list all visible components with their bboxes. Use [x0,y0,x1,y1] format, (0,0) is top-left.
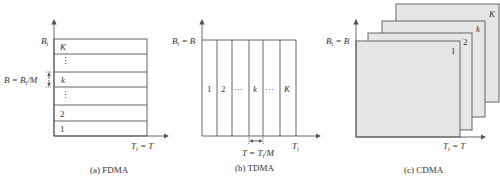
fdma-band-label: B = Bt/M [4,75,38,86]
fdma-y-label: Bt [41,36,49,47]
fdma-row-k: k [61,75,66,85]
tdma-caption: (b) TDMA [235,163,275,173]
fdma-row-K: K [59,42,67,52]
tdma-col-K: K [283,84,291,94]
cdma-x-label: Tt = T [443,141,466,152]
cdma-y-label: Bt = B [326,36,350,47]
cdma-plate-K-label: K [488,9,496,19]
cdma-plate-2-label: 2 [463,37,468,47]
tdma-x-label: Tt [292,141,299,152]
cdma-caption: (c) CDMA [404,165,444,175]
cdma-plate-1-label: 1 [451,46,456,56]
fdma-row-1: 1 [60,124,65,134]
fdma-caption: (a) FDMA [90,165,129,175]
tdma-col-2: 2 [221,84,226,94]
tdma-col-dots-right: ··· [265,84,274,94]
multiple-access-diagram: K ⋮ k ⋮ 2 1 Bt B = Bt/M Tt = T (a) FDMA … [0,0,500,179]
fdma-row-dots-upper: ⋮ [61,56,70,66]
cdma-panel: K k 2 1 Bt = B Tt = T (c) CDMA [326,4,499,175]
tdma-col-1: 1 [207,84,212,94]
cdma-plate-1 [356,41,460,137]
fdma-row-dots-lower: ⋮ [61,90,70,100]
fdma-panel: K ⋮ k ⋮ 2 1 Bt B = Bt/M Tt = T (a) FDMA [4,20,168,175]
fdma-x-label: Tt = T [131,141,154,152]
tdma-col-k: k [253,84,258,94]
tdma-col-dots-left: ··· [234,84,243,94]
fdma-row-2: 2 [60,109,65,119]
tdma-panel: 1 2 ··· k ··· K Bt = B T = Tt/M Tt (b) T… [172,20,320,173]
tdma-y-label: Bt = B [172,36,196,47]
tdma-slot-label: T = Tt/M [242,148,275,159]
